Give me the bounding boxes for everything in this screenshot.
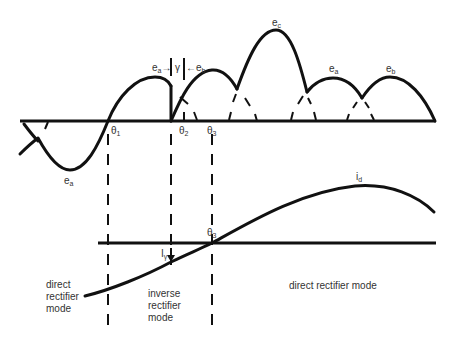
rectifier-waveform-diagram: ea ec ea eb ea→ γ ←eb θ1 θ2 θ3 id Iγ θ3 …	[0, 0, 454, 352]
label-ea-right: ea	[329, 63, 339, 75]
ec-right-dashes	[291, 96, 316, 120]
label-gamma: γ	[175, 62, 180, 73]
eb-dash-down	[194, 112, 197, 120]
mode-label-direct-right: direct rectifier mode	[289, 280, 377, 291]
ec-left-dashes	[229, 94, 257, 121]
ea-waveform	[20, 77, 171, 170]
label-theta1: θ1	[111, 125, 121, 137]
label-id: id	[356, 171, 362, 183]
ea-right-waveform	[307, 78, 362, 98]
label-eb-right: eb	[386, 63, 396, 75]
ec-waveform	[237, 30, 307, 92]
ec-negative-branch	[24, 124, 38, 141]
ea-right-dashes	[347, 102, 374, 120]
label-commutation-ea: ea→	[152, 62, 171, 74]
mode-label-direct-left: direct rectifier mode	[46, 279, 82, 314]
label-theta3: θ3	[207, 125, 217, 137]
ec-negative-branch-dash	[45, 122, 48, 129]
label-commutation-eb: ←eb	[186, 62, 206, 74]
eb-right-waveform	[362, 77, 435, 121]
id-current-curve	[85, 186, 434, 296]
mode-label-inverse: inverse rectifier mode	[148, 288, 184, 323]
label-ec-top: ec	[272, 17, 282, 29]
label-theta3-crossing: θ3	[207, 227, 217, 239]
eb-waveform	[171, 70, 237, 121]
label-theta2: θ2	[179, 125, 189, 137]
label-igamma: Iγ	[161, 248, 168, 261]
label-ea-neg: ea	[64, 175, 74, 187]
